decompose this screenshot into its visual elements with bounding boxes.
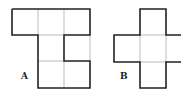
- figure-a-label: A: [21, 71, 28, 81]
- figure-b-label: B: [120, 71, 128, 81]
